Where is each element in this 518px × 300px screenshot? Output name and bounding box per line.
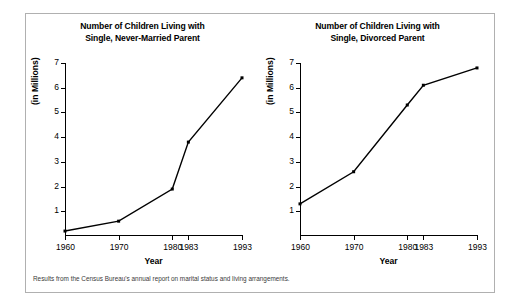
chart-title: Number of Children Living with Single, D… bbox=[260, 21, 495, 44]
y-tick-label: 4 bbox=[54, 131, 59, 142]
y-tick-label: 6 bbox=[54, 82, 59, 93]
x-tick: 1993 bbox=[477, 235, 478, 236]
x-tick-mark bbox=[242, 235, 243, 240]
series-line bbox=[65, 63, 242, 236]
data-point-marker bbox=[406, 104, 409, 107]
y-tick-label: 7 bbox=[289, 57, 294, 68]
x-axis-label: Year bbox=[65, 256, 242, 266]
y-axis-label: (in Millions) bbox=[30, 57, 40, 105]
data-point-marker bbox=[187, 141, 190, 144]
y-tick-label: 6 bbox=[289, 82, 294, 93]
y-tick-label: 2 bbox=[54, 181, 59, 192]
figure-root: Number of Children Living with Single, N… bbox=[0, 0, 518, 300]
y-tick-label: 4 bbox=[289, 131, 294, 142]
x-tick-label: 1983 bbox=[179, 242, 198, 253]
x-tick-label: 1983 bbox=[414, 242, 433, 253]
x-tick: 1993 bbox=[242, 235, 243, 236]
data-point-marker bbox=[352, 170, 355, 173]
data-point-marker bbox=[299, 202, 302, 205]
y-tick-label: 7 bbox=[54, 57, 59, 68]
y-tick-label: 1 bbox=[289, 205, 294, 216]
chart-title: Number of Children Living with Single, N… bbox=[25, 21, 260, 44]
y-tick-label: 1 bbox=[54, 205, 59, 216]
series-line bbox=[300, 63, 477, 236]
chart-panel-divorced: Number of Children Living with Single, D… bbox=[260, 13, 495, 266]
chart-title-line1: Number of Children Living with bbox=[260, 21, 495, 33]
y-tick-label: 2 bbox=[289, 181, 294, 192]
data-point-marker bbox=[422, 84, 425, 87]
x-tick-label: 1960 bbox=[291, 242, 310, 253]
data-point-marker bbox=[476, 66, 479, 69]
data-point-marker bbox=[171, 188, 174, 191]
x-tick-label: 1993 bbox=[233, 242, 252, 253]
chart-panel-never-married: Number of Children Living with Single, N… bbox=[25, 13, 260, 266]
chart-title-line2: Single, Never-Married Parent bbox=[25, 33, 260, 45]
chart-title-line2: Single, Divorced Parent bbox=[260, 33, 495, 45]
x-tick-mark bbox=[477, 235, 478, 240]
y-tick-label: 3 bbox=[54, 156, 59, 167]
x-tick-label: 1993 bbox=[468, 242, 487, 253]
x-axis-label: Year bbox=[300, 256, 477, 266]
chart-title-line1: Number of Children Living with bbox=[25, 21, 260, 33]
source-footnote: Results from the Census Bureau's annual … bbox=[33, 274, 290, 283]
data-point-marker bbox=[117, 220, 120, 223]
x-tick-label: 1970 bbox=[345, 242, 364, 253]
x-tick-label: 1960 bbox=[56, 242, 75, 253]
y-tick-label: 3 bbox=[289, 156, 294, 167]
charts-row: Number of Children Living with Single, N… bbox=[25, 13, 495, 266]
y-axis-label: (in Millions) bbox=[265, 57, 275, 105]
x-tick-label: 1970 bbox=[110, 242, 129, 253]
y-tick-label: 5 bbox=[54, 106, 59, 117]
plot-area: 1234567 19601970198019831993 bbox=[65, 63, 242, 236]
y-tick-label: 5 bbox=[289, 106, 294, 117]
data-point-marker bbox=[64, 230, 67, 233]
data-point-marker bbox=[241, 76, 244, 79]
plot-area: 1234567 19601970198019831993 bbox=[300, 63, 477, 236]
